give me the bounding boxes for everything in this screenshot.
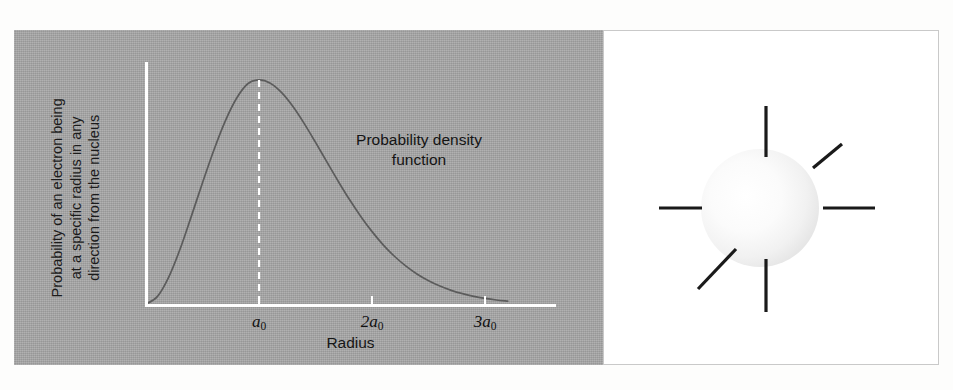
x-tick-label-3a0: 3a0 bbox=[474, 312, 497, 332]
orbital-diagram bbox=[604, 31, 939, 365]
x-axis-label: Radius bbox=[145, 334, 556, 352]
x-tick-label-a0: a0 bbox=[252, 312, 266, 332]
x-tick-2a0 bbox=[371, 296, 373, 305]
figure-container: Probability of an electron being at a sp… bbox=[0, 0, 953, 390]
curve-annotation: Probability density function bbox=[319, 130, 519, 170]
x-tick-3a0 bbox=[484, 296, 486, 305]
orbital-diagram-panel bbox=[603, 30, 939, 365]
ray-lower-left bbox=[698, 249, 736, 289]
peak-marker-line bbox=[14, 30, 603, 365]
x-tick-label-2a0: 2a0 bbox=[361, 312, 384, 332]
electron-cloud-sphere bbox=[701, 149, 819, 267]
x-tick-a0 bbox=[258, 296, 260, 305]
probability-chart-panel: Probability of an electron being at a sp… bbox=[14, 30, 603, 365]
ray-upper-right bbox=[813, 144, 842, 168]
